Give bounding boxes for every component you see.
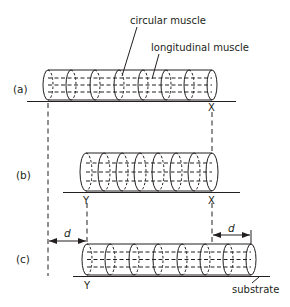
locomotion-diagram: circular muscle longitudinal muscle (a) … [0, 0, 290, 307]
label-longitudinal-muscle: longitudinal muscle [151, 42, 249, 53]
distance-label-left: d [64, 227, 71, 239]
label-substrate: substrate [232, 284, 279, 295]
panel-label-b: (b) [16, 169, 31, 181]
label-circular-muscle: circular muscle [130, 15, 206, 26]
diagram-canvas: circular muscle longitudinal muscle (a) … [0, 0, 290, 307]
leader-circular-muscle [122, 27, 137, 76]
point-y-b: Y [82, 195, 90, 206]
leader-longitudinal-muscle [152, 54, 159, 79]
panel-label-c: (c) [16, 253, 30, 265]
point-y-c: Y [83, 280, 91, 291]
distance-label-right: d [228, 222, 235, 234]
panel-label-a: (a) [13, 83, 28, 95]
point-x-a: X [208, 102, 215, 113]
panel-a-worm [27, 70, 236, 102]
panel-b-worm [63, 153, 240, 193]
panel-c-worm [73, 244, 270, 277]
point-x-b: X [208, 195, 215, 206]
leader-substrate [252, 277, 259, 283]
